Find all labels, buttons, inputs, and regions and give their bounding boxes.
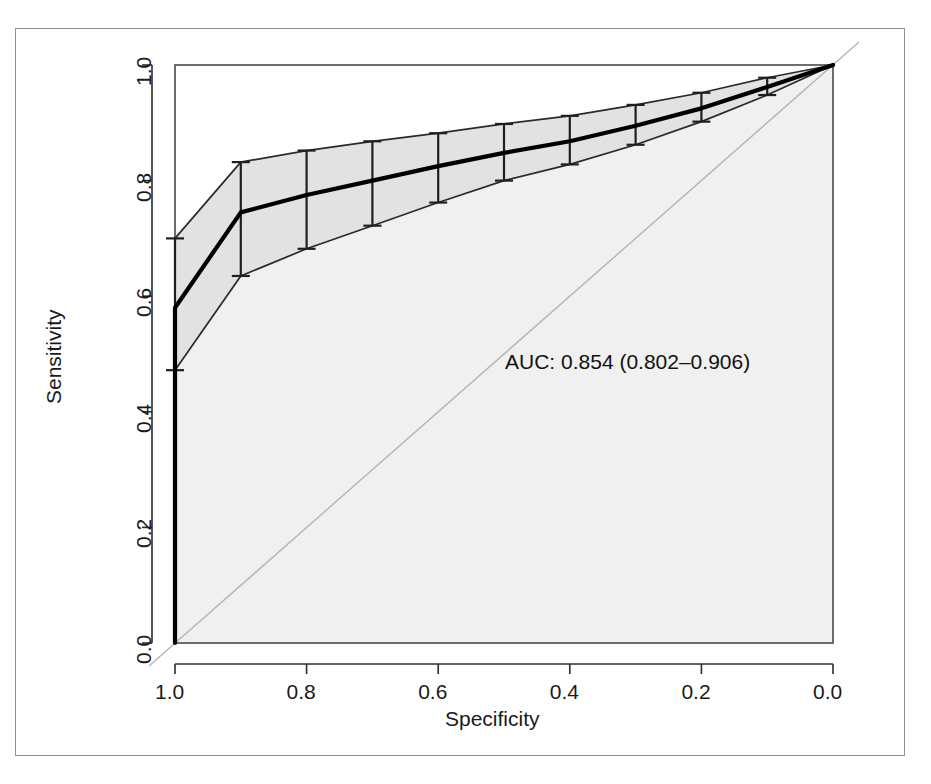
y-tick-label-0-0: 0.0 bbox=[132, 635, 156, 664]
y-tick-label-0-2: 0.2 bbox=[132, 519, 156, 548]
x-tick-label-0-6: 0.6 bbox=[418, 680, 447, 704]
y-tick-label-0-8: 0.8 bbox=[132, 172, 156, 201]
x-tick-label-0-8: 0.8 bbox=[287, 680, 316, 704]
x-tick-label-0-2: 0.2 bbox=[681, 680, 710, 704]
y-axis-title: Sensitivity bbox=[42, 309, 66, 404]
x-axis-title: Specificity bbox=[445, 707, 540, 731]
auc-annotation-text: AUC: 0.854 (0.802–0.906) bbox=[505, 350, 750, 374]
y-tick-label-0-6: 0.6 bbox=[132, 288, 156, 317]
roc-figure-root: 1.00.80.60.40.20.00.00.20.40.60.81.0 AUC… bbox=[0, 0, 931, 784]
x-tick-label-1-0: 1.0 bbox=[155, 680, 184, 704]
y-tick-label-1-0: 1.0 bbox=[132, 57, 156, 86]
x-tick-label-0-4: 0.4 bbox=[550, 680, 579, 704]
y-tick-label-0-4: 0.4 bbox=[132, 404, 156, 433]
roc-plot-canvas bbox=[0, 0, 931, 784]
x-tick-label-0-0: 0.0 bbox=[813, 680, 842, 704]
